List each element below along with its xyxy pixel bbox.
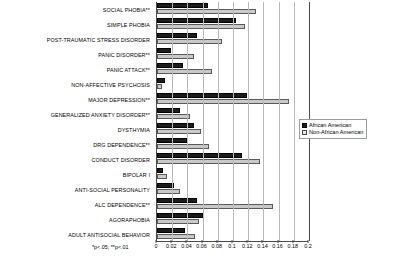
category-label: SIMPLE PHOBIA — [107, 22, 150, 28]
gridline — [203, 2, 204, 241]
bar-african-american — [157, 48, 171, 53]
x-tick-mark — [232, 240, 233, 243]
gridline — [279, 2, 280, 241]
bar-non-african-american — [157, 54, 194, 59]
x-tick-label: 0.18 — [288, 243, 299, 249]
x-tick-label: 0 — [155, 243, 158, 249]
x-tick-label: 0.02 — [166, 243, 177, 249]
legend-label: African American — [309, 122, 351, 129]
gridline — [294, 2, 295, 241]
x-tick-mark — [186, 240, 187, 243]
bar-non-african-american — [157, 84, 162, 89]
bar-non-african-american — [157, 114, 190, 119]
category-label: DRG DEPENDENCE** — [93, 142, 150, 148]
legend-item-non-african-american: Non-African American — [302, 129, 363, 136]
category-label: ADULT ANTISOCIAL BEHAVIOR — [68, 232, 150, 238]
bar-african-american — [157, 213, 203, 218]
gridline — [233, 2, 234, 241]
bar-african-american — [157, 123, 194, 128]
category-label: NON-AFFECTIVE PSYCHOSIS — [71, 82, 150, 88]
legend: African American Non-African American — [299, 119, 367, 139]
gridline — [172, 2, 173, 241]
bar-non-african-american — [157, 204, 273, 209]
x-tick-mark — [201, 240, 202, 243]
bar-non-african-american — [157, 24, 245, 29]
x-tick-label: 0.04 — [181, 243, 192, 249]
bar-african-american — [157, 18, 236, 23]
legend-swatch-icon — [302, 123, 307, 128]
x-tick-mark — [308, 240, 309, 243]
category-label: ALC DEPENDENCE** — [95, 202, 150, 208]
bar-african-american — [157, 33, 197, 38]
category-label: POST-TRAUMATIC STRESS DISORDER — [47, 37, 150, 43]
category-label: DYSTHYMIA — [118, 127, 150, 133]
x-tick-mark — [262, 240, 263, 243]
category-label: AGORAPHOBIA — [109, 217, 150, 223]
x-tick-mark — [216, 240, 217, 243]
gridline — [263, 2, 264, 241]
category-label: BIPOLAR I — [123, 172, 150, 178]
bar-non-african-american — [157, 144, 209, 149]
bar-african-american — [157, 78, 165, 83]
bar-non-african-american — [157, 174, 167, 179]
x-tick-mark — [156, 240, 157, 243]
bar-non-african-american — [157, 69, 212, 74]
significance-note: *p<.05; **p<.01 — [92, 244, 129, 250]
category-label: ANTI-SOCIAL PERSONALITY — [75, 187, 150, 193]
bar-african-american — [157, 198, 197, 203]
x-tick-label: 0.06 — [196, 243, 207, 249]
category-axis: SOCIAL PHOBIA**SIMPLE PHOBIAPOST-TRAUMAT… — [0, 2, 154, 242]
category-label: MAJOR DEPRESSION** — [88, 97, 150, 103]
bar-non-african-american — [157, 99, 289, 104]
gridline — [187, 2, 188, 241]
gridline — [218, 2, 219, 241]
category-label: GENERALIZED ANXIETY DISORDER** — [51, 112, 150, 118]
legend-swatch-icon — [302, 130, 307, 135]
plot-area — [156, 2, 308, 242]
x-tick-label: 0.1 — [228, 243, 236, 249]
category-label: PANIC ATTACK** — [107, 67, 150, 73]
legend-label: Non-African American — [309, 129, 363, 136]
bar-non-african-american — [157, 219, 199, 224]
x-axis-ticks: 00.020.040.060.080.10.120.140.160.180.2 — [156, 243, 308, 255]
x-tick-label: 0.16 — [272, 243, 283, 249]
bar-african-american — [157, 228, 185, 233]
category-label: PANIC DISORDER** — [98, 52, 150, 58]
category-label: CONDUCT DISORDER — [92, 157, 150, 163]
x-tick-label: 0.2 — [304, 243, 312, 249]
bar-chart: SOCIAL PHOBIA**SIMPLE PHOBIAPOST-TRAUMAT… — [0, 0, 394, 273]
bar-african-american — [157, 108, 180, 113]
category-label: SOCIAL PHOBIA** — [103, 7, 150, 13]
bar-african-american — [157, 63, 183, 68]
x-tick-mark — [292, 240, 293, 243]
bar-african-american — [157, 3, 208, 8]
legend-item-african-american: African American — [302, 122, 363, 129]
x-tick-label: 0.08 — [212, 243, 223, 249]
bar-non-african-american — [157, 129, 201, 134]
x-tick-label: 0.14 — [257, 243, 268, 249]
x-tick-mark — [277, 240, 278, 243]
bar-african-american — [157, 168, 163, 173]
bar-african-american — [157, 153, 242, 158]
x-tick-mark — [247, 240, 248, 243]
bar-non-african-american — [157, 234, 195, 239]
x-tick-label: 0.12 — [242, 243, 253, 249]
bar-non-african-american — [157, 189, 180, 194]
x-tick-mark — [171, 240, 172, 243]
bar-non-african-american — [157, 39, 222, 44]
gridline — [248, 2, 249, 241]
